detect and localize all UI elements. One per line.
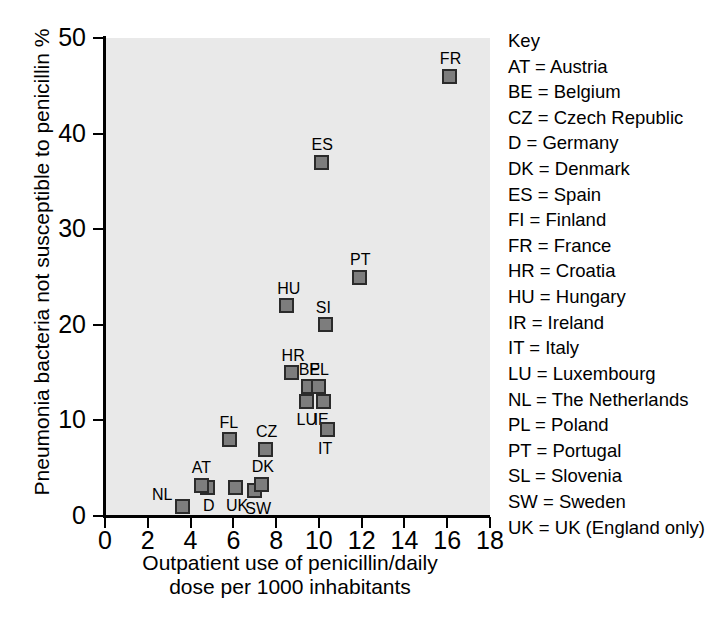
key-entry: IT = Italy [508,335,714,361]
key-entry: HR = Croatia [508,258,714,284]
x-tick-label: 4 [171,528,211,553]
data-point-label: IT [318,441,332,457]
data-point-marker [279,298,294,313]
data-point-label: FR [440,51,461,67]
x-axis-title: Outpatient use of penicillin/daily dose … [80,551,500,598]
key-entry: PT = Portugal [508,438,714,464]
key-entry: CZ = Czech Republic [508,105,714,131]
x-tick-label: 6 [213,528,253,553]
y-axis-line [103,36,106,518]
data-point-marker [175,499,190,514]
key-entry: LU = Luxembourg [508,361,714,387]
key-entry: FR = France [508,233,714,259]
key-legend: Key AT = AustriaBE = BelgiumCZ = Czech R… [508,28,714,540]
data-point-marker [194,478,209,493]
key-title: Key [508,28,714,54]
data-point-marker [228,480,243,495]
data-point-label: ES [312,137,333,153]
key-entry-list: AT = AustriaBE = BelgiumCZ = Czech Repub… [508,54,714,541]
data-point-label: NL [152,487,172,503]
data-point-label: SW [245,501,271,517]
y-tick-mark [93,37,104,39]
data-point-marker [311,379,326,394]
x-tick-label: 2 [128,528,168,553]
plot-area-background [105,38,490,516]
key-entry: IR = Ireland [508,310,714,336]
key-entry: UK = UK (England only) [508,515,714,541]
data-point-label: SI [316,300,331,316]
x-axis-title-line1: Outpatient use of penicillin/daily [80,551,500,575]
y-tick-mark [93,228,104,230]
data-point-label: DK [252,459,274,475]
data-point-marker [318,317,333,332]
x-tick-label: 0 [85,528,125,553]
key-entry: NL = The Netherlands [508,387,714,413]
key-entry: PL = Poland [508,412,714,438]
data-point-marker [442,69,457,84]
x-tick-label: 8 [256,528,296,553]
key-entry: AT = Austria [508,54,714,80]
x-tick-label: 12 [342,528,382,553]
key-entry: SL = Slovenia [508,463,714,489]
scatter-chart-figure: 01020304050 024681012141618 Pneumonia ba… [0,0,716,632]
data-point-label: PL [309,362,329,378]
x-tick-label: 16 [427,528,467,553]
y-tick-mark [93,515,104,517]
key-entry: D = Germany [508,130,714,156]
x-axis-line [103,515,490,518]
data-point-marker [352,270,367,285]
key-entry: BE = Belgium [508,79,714,105]
data-point-marker [316,394,331,409]
x-axis-title-line2: dose per 1000 inhabitants [80,575,500,599]
data-point-marker [299,394,314,409]
y-axis-title: Pneumonia bacteria not susceptible to pe… [30,12,54,512]
data-point-marker [258,442,273,457]
y-tick-mark [93,419,104,421]
data-point-label: HU [277,281,300,297]
x-tick-label: 14 [384,528,424,553]
data-point-marker [320,422,335,437]
data-point-marker [222,432,237,447]
key-entry: DK = Denmark [508,156,714,182]
data-point-marker [254,477,269,492]
key-entry: SW = Sweden [508,489,714,515]
key-entry: ES = Spain [508,182,714,208]
y-tick-mark [93,324,104,326]
data-point-label: AT [192,460,211,476]
data-point-label: PT [350,252,370,268]
data-point-marker [314,155,329,170]
data-point-label: FL [220,415,239,431]
data-point-label: D [203,498,215,514]
y-tick-mark [93,133,104,135]
x-tick-label: 10 [299,528,339,553]
key-entry: FI = Finland [508,207,714,233]
x-tick-label: 18 [470,528,510,553]
data-point-label: CZ [256,424,277,440]
data-point-marker [284,365,299,380]
key-entry: HU = Hungary [508,284,714,310]
